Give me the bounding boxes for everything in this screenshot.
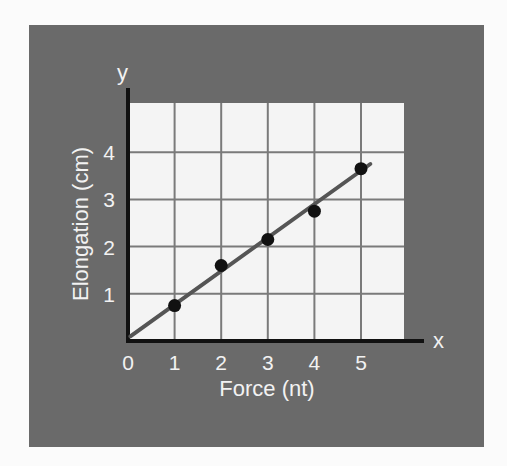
x-tick-label: 5 (355, 351, 367, 374)
y-tick-label: 1 (103, 283, 115, 306)
y-axis-label: Elongation (cm) (68, 147, 93, 301)
y-tick-label: 4 (103, 141, 115, 164)
y-tick-label: 2 (103, 236, 115, 259)
data-point (168, 299, 181, 312)
data-point (355, 162, 368, 175)
x-axis-letter: x (433, 328, 444, 353)
y-tick-label: 3 (103, 188, 115, 211)
data-point (261, 233, 274, 246)
x-tick-label: 3 (262, 351, 274, 374)
x-tick-label: 0 (122, 351, 134, 374)
x-tick-label: 2 (215, 351, 227, 374)
elongation-vs-force-chart: 0123451234 Force (nt) Elongation (cm) x … (0, 0, 507, 466)
x-tick-label: 4 (309, 351, 321, 374)
x-tick-label: 1 (169, 351, 181, 374)
y-axis-letter: y (117, 60, 128, 85)
x-axis-label: Force (nt) (219, 376, 314, 401)
data-point (308, 205, 321, 218)
data-point (215, 259, 228, 272)
